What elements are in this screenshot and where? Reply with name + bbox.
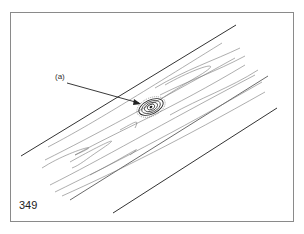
wood-grain-diagram (0, 0, 304, 234)
board-top-edge (21, 25, 236, 156)
board-bottom-edge (113, 108, 277, 213)
figure-number: 349 (19, 199, 37, 211)
arrowhead-icon (133, 99, 141, 105)
knot-icon (134, 93, 169, 122)
callout-arrow (67, 83, 139, 103)
grain-lines (42, 43, 265, 196)
callout-label: (a) (55, 72, 65, 81)
